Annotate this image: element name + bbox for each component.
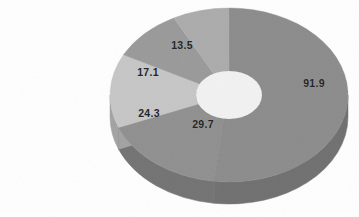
data-label-24.3: 24.3 [138, 107, 160, 119]
data-label-91.9: 91.9 [303, 77, 325, 89]
data-label-17.1: 17.1 [137, 66, 159, 78]
data-label-13.5: 13.5 [171, 39, 193, 51]
chart-canvas [0, 0, 359, 217]
doughnut-chart-3d: 91.929.724.317.113.5 [0, 0, 359, 217]
doughnut-hole [196, 71, 262, 119]
data-label-29.7: 29.7 [192, 118, 214, 130]
